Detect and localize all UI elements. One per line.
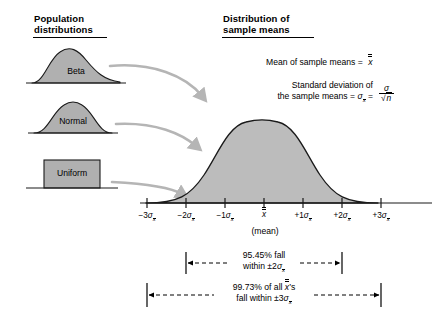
tick-3-center: x <box>262 210 266 219</box>
sd-equals: = <box>368 91 373 101</box>
sqrt-icon: √ <box>381 93 386 103</box>
tick-2-sign: −1 <box>216 211 225 220</box>
shape-label-beta: Beta <box>46 66 106 76</box>
tick-5-sign: +2 <box>333 211 342 220</box>
sd-sub-overbar <box>363 99 366 100</box>
shape-label-normal: Normal <box>43 116 103 126</box>
heading-left-underline <box>33 37 107 38</box>
tick-label-plus-2-sigma: +2σx <box>322 211 362 220</box>
heading-right-line1: Distribution of <box>223 13 289 24</box>
band-95-line1: 95.45% fall <box>214 250 314 261</box>
sd-denominator-group: √n <box>379 93 394 103</box>
tick-1-sign: −2 <box>177 211 186 220</box>
band-99-line1: 99.73% of all x ’s <box>214 282 314 293</box>
heading-left-line1: Population <box>34 13 84 24</box>
tick-label-plus-3-sigma: +3σx <box>361 211 401 220</box>
band-99-line1-prefix: 99.73% of all <box>233 282 283 292</box>
tick-6-sign: +3 <box>372 211 381 220</box>
arrow-uniform <box>112 182 182 194</box>
tick-label-minus-3-sigma: −3σx <box>127 211 167 220</box>
band-99-line1-suffix: ’s <box>289 282 295 292</box>
tick-label-minus-2-sigma: −2σx <box>166 211 206 220</box>
central-limit-theorem-diagram: Population distributions Distribution of… <box>0 0 442 318</box>
band-99-line2: fall within ±3σx <box>214 293 314 304</box>
sampling-distribution-curve <box>146 120 378 203</box>
arrow-beta <box>110 65 202 96</box>
sd-fraction: σ √n <box>379 84 394 103</box>
flow-arrows <box>110 65 202 194</box>
band-99-xbar: x <box>285 282 289 292</box>
band-95-line2-prefix: within ±2 <box>243 261 277 271</box>
sd-formula-line1: Standard deviation of <box>248 80 373 91</box>
heading-right-line2: sample means <box>223 24 290 35</box>
xbar-overbar-inner <box>368 56 372 57</box>
heading-right-underline <box>222 37 314 38</box>
sd-label-line2: the sample means = <box>277 91 355 101</box>
xbar-overbar-outer <box>368 54 372 55</box>
tick-label-minus-1-sigma: −1σx <box>205 211 245 220</box>
mean-of-sample-means-formula: Mean of sample means = x <box>266 57 372 68</box>
shape-label-uniform: Uniform <box>42 168 102 178</box>
mean-formula-value: x <box>368 57 372 67</box>
arrow-normal <box>116 124 196 146</box>
axis-note-mean: (mean) <box>244 226 286 237</box>
sd-symbol-group: σx <box>357 91 368 101</box>
tick-label-center-mean: x <box>244 210 284 219</box>
sd-label-line1: Standard deviation of <box>292 80 373 90</box>
mean-formula-label: Mean of sample means = <box>266 57 363 67</box>
sd-denominator: n <box>386 92 393 103</box>
band-99-line2-prefix: fall within ±3 <box>236 293 283 303</box>
tick-label-plus-1-sigma: +1σx <box>283 211 323 220</box>
band-95-line2: within ±2σx <box>214 261 314 272</box>
heading-left-line2: distributions <box>34 24 93 35</box>
tick-4-sign: +1 <box>294 211 303 220</box>
population-distributions-heading: Population distributions <box>34 13 144 35</box>
sample-means-heading: Distribution of sample means <box>223 13 353 35</box>
sd-formula-line2: the sample means = σx = <box>248 91 373 102</box>
tick-0-sign: −3 <box>138 211 147 220</box>
